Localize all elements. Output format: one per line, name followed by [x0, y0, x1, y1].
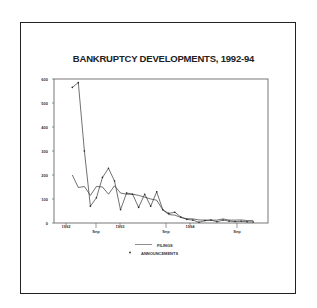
announcement-marker: [138, 207, 140, 209]
announcement-marker: [90, 205, 92, 207]
announcement-marker: [228, 220, 230, 222]
announcement-marker: [120, 209, 122, 211]
announcement-marker: [114, 180, 116, 182]
legend-announcements-marker: [129, 252, 131, 254]
line-chart: 01002003004005006001992Sep1993Sep1994Sep: [0, 0, 317, 308]
announcement-marker: [144, 193, 146, 195]
y-tick-label: 500: [41, 101, 48, 106]
x-tick-label: 1994: [186, 224, 196, 229]
x-tick-label: Sep: [92, 229, 100, 234]
announcement-marker: [126, 192, 128, 194]
announcement-marker: [198, 221, 200, 223]
legend-filings-label: FILINGS: [157, 243, 173, 248]
announcement-marker: [180, 216, 182, 218]
announcement-marker: [246, 221, 248, 223]
announcement-marker: [102, 177, 104, 179]
y-tick-label: 400: [41, 125, 48, 130]
announcement-marker: [108, 167, 110, 169]
announcements-line: [72, 83, 253, 223]
announcement-marker: [72, 87, 74, 89]
y-tick-label: 200: [41, 173, 48, 178]
announcement-marker: [132, 193, 134, 195]
announcement-marker: [204, 220, 206, 222]
announcement-marker: [168, 213, 170, 215]
y-tick-label: 600: [41, 77, 48, 82]
announcement-marker: [78, 82, 80, 84]
announcement-marker: [156, 191, 158, 193]
y-tick-label: 300: [41, 149, 48, 154]
x-tick-label: 1993: [116, 224, 126, 229]
plot-area: [54, 79, 268, 223]
x-tick-label: 1992: [62, 224, 72, 229]
announcement-marker: [240, 221, 242, 223]
legend-announcements-label: ANNOUNCEMENTS: [141, 251, 178, 256]
x-tick-label: Sep: [233, 229, 241, 234]
announcement-marker: [210, 219, 212, 221]
announcement-marker: [216, 221, 218, 223]
announcement-marker: [174, 211, 176, 213]
y-tick-label: 100: [41, 197, 48, 202]
announcement-marker: [150, 205, 152, 207]
announcement-marker: [186, 219, 188, 221]
announcement-marker: [96, 197, 98, 199]
announcement-marker: [222, 219, 224, 221]
announcement-marker: [192, 219, 194, 221]
announcement-marker: [162, 209, 164, 211]
x-tick-label: Sep: [162, 229, 170, 234]
announcement-marker: [234, 221, 236, 223]
announcement-marker: [84, 150, 86, 152]
filings-line: [72, 175, 253, 221]
y-tick-label: 0: [46, 221, 49, 226]
announcement-marker: [252, 221, 254, 223]
